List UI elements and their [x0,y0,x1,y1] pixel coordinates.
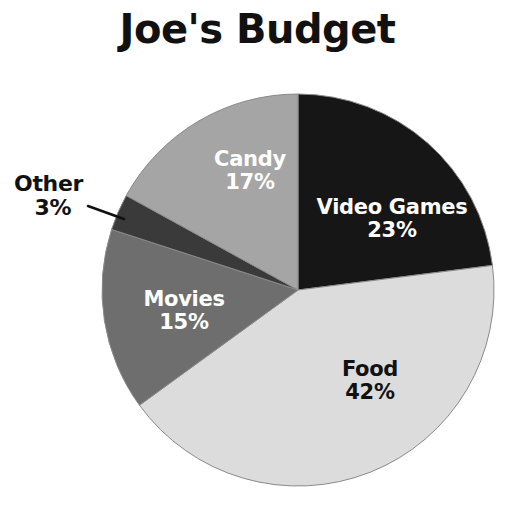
pie-slice-video-games[interactable] [298,94,492,290]
pie-svg [0,0,515,511]
pie-slice-group [102,94,494,486]
pie-chart-figure: Joe's Budget Video Games 23% Food 42% Mo… [0,0,515,511]
